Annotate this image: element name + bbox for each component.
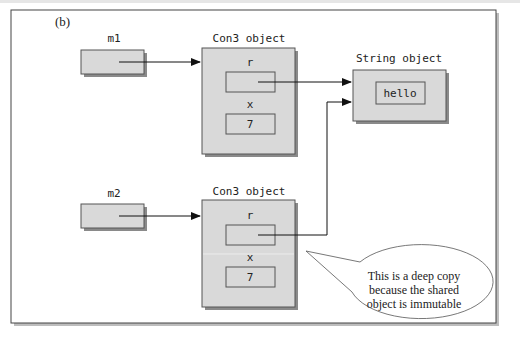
deep-copy-diagram: (b) m1 m2 Con3 object r x 7 Con3 object … <box>0 0 520 343</box>
string-value: hello <box>383 87 416 100</box>
object-title: Con3 object <box>213 32 286 45</box>
field-name-x: x <box>247 98 254 111</box>
object-title: String object <box>356 52 442 65</box>
top-strip <box>0 0 520 3</box>
object-title: Con3 object <box>213 185 286 198</box>
field-name-x: x <box>247 251 254 264</box>
field-name-r: r <box>247 56 254 69</box>
field-name-r: r <box>247 209 254 222</box>
variable-label: m2 <box>107 187 120 200</box>
con3-object-bottom: Con3 object r x 7 <box>202 185 298 310</box>
variable-label: m1 <box>107 32 120 45</box>
field-value-x: 7 <box>247 118 254 131</box>
con3-object-top: Con3 object r x 7 <box>202 32 298 157</box>
callout-line: because the shared <box>369 283 459 297</box>
panel-label: (b) <box>55 14 70 29</box>
callout-line: This is a deep copy <box>368 269 461 283</box>
field-value-x: 7 <box>247 271 254 284</box>
string-object: String object hello <box>353 52 449 124</box>
callout-line: object is immutable <box>367 297 462 311</box>
